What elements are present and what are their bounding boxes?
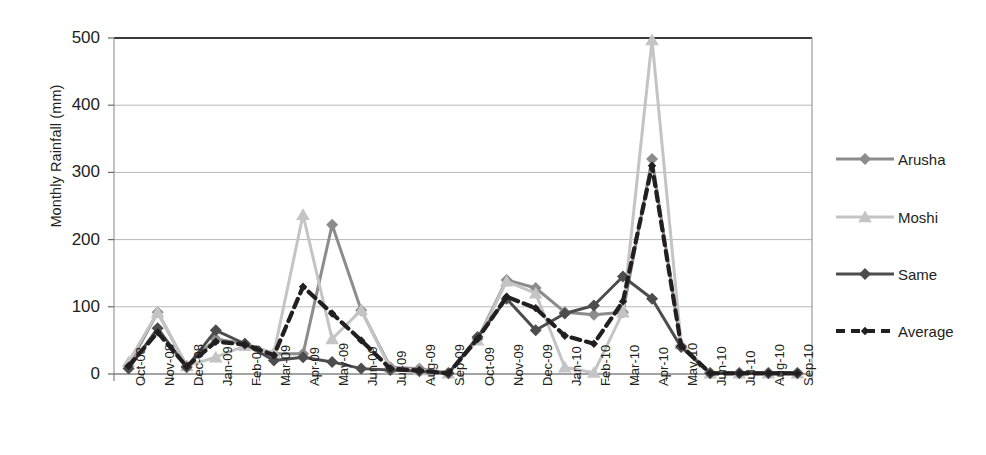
x-tick-label: Sep-10	[802, 344, 815, 386]
gridlines	[114, 38, 812, 374]
axes	[114, 38, 812, 374]
x-tick-label: Jun-10	[715, 346, 728, 386]
x-tick-label: Apr-10	[657, 347, 670, 386]
x-tick-label: May-09	[337, 343, 350, 386]
y-axis-ticks	[108, 38, 114, 374]
y-tick-label: 500	[40, 29, 100, 46]
legend-swatch-moshi	[836, 208, 894, 226]
data-point	[296, 208, 310, 220]
legend-label-moshi: Moshi	[898, 209, 938, 227]
x-tick-label: Oct-08	[134, 347, 147, 386]
x-tick-label: May-10	[686, 343, 699, 386]
legend-swatch-layer	[836, 153, 894, 335]
series-moshi	[122, 34, 805, 379]
y-tick-label: 300	[40, 163, 100, 180]
legend-label-same: Same	[898, 266, 937, 284]
data-series-layer	[122, 34, 805, 380]
y-tick-label: 200	[40, 231, 100, 248]
x-tick-label: Oct-09	[483, 347, 496, 386]
x-tick-label: Apr-09	[308, 347, 321, 386]
x-tick-label: Sep-09	[453, 344, 466, 386]
x-tick-label: Dec-08	[192, 344, 205, 386]
x-tick-label: Nov-09	[512, 344, 525, 386]
x-tick-label: Jul-10	[744, 351, 757, 386]
x-tick-label: Jan-09	[221, 346, 234, 386]
x-tick-label: Dec-09	[541, 344, 554, 386]
y-tick-label: 400	[40, 96, 100, 113]
x-tick-label: Mar-10	[628, 345, 641, 386]
x-tick-label: Nov-08	[163, 344, 176, 386]
legend-swatch-average	[836, 322, 894, 340]
x-tick-label: Feb-10	[599, 345, 612, 386]
legend-label-average: Average	[898, 323, 954, 341]
x-tick-label: Aug-10	[773, 344, 786, 386]
legend-label-arusha: Arusha	[898, 151, 946, 169]
y-tick-label: 100	[40, 298, 100, 315]
x-tick-label: Jul-09	[395, 351, 408, 386]
data-point	[645, 34, 659, 46]
chart-canvas	[0, 0, 986, 455]
x-tick-label: Jan-10	[570, 346, 583, 386]
y-tick-label: 0	[40, 365, 100, 382]
legend-swatch-same	[836, 265, 894, 283]
x-tick-label: Aug-09	[424, 344, 437, 386]
legend-swatch-arusha	[836, 150, 894, 168]
x-tick-label: Jun-09	[366, 346, 379, 386]
rainfall-line-chart: Monthly Rainfall (mm) 0100200300400500 O…	[0, 0, 986, 455]
data-point	[326, 219, 338, 231]
x-tick-label: Mar-09	[279, 345, 292, 386]
x-tick-label: Feb-09	[250, 345, 263, 386]
